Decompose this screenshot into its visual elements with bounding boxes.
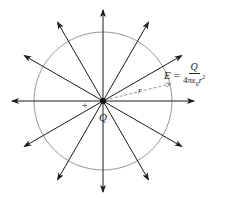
charge-label: Q bbox=[99, 112, 107, 123]
field-line-arrow bbox=[103, 101, 182, 147]
radius-label: r bbox=[138, 86, 142, 95]
formula-lhs: E bbox=[164, 69, 171, 81]
formula-numerator: Q bbox=[189, 62, 200, 74]
field-formula: E = Q 4πε0r2 bbox=[164, 62, 205, 87]
formula-fraction: Q 4πε0r2 bbox=[183, 62, 205, 87]
field-line-arrow bbox=[103, 101, 149, 180]
point-charge bbox=[100, 98, 106, 104]
field-line-arrow bbox=[58, 101, 104, 180]
formula-denominator: 4πε0r2 bbox=[183, 74, 205, 88]
field-line-arrow bbox=[24, 56, 103, 102]
formula-equals: = bbox=[174, 69, 180, 81]
field-line-arrow bbox=[58, 22, 104, 101]
plus-sign: + bbox=[82, 101, 88, 111]
field-line-arrow bbox=[24, 101, 103, 147]
field-diagram bbox=[0, 0, 228, 198]
